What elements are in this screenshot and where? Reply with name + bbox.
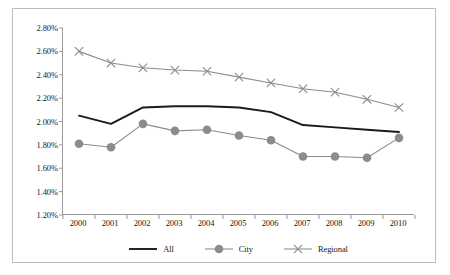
- series-all: [79, 106, 399, 132]
- legend-swatch-city-icon: [204, 243, 234, 255]
- data-point-marker-circle: [267, 136, 276, 145]
- legend-item-regional[interactable]: Regional: [283, 243, 348, 255]
- data-point-marker-circle: [299, 152, 308, 161]
- series-regional: [75, 47, 403, 112]
- legend-label: Regional: [318, 245, 348, 254]
- legend-label: City: [239, 245, 253, 254]
- y-axis-tick-label: 2.00%: [10, 118, 58, 127]
- chart-figure: 2.80%2.60%2.40%2.20%2.00%1.80%1.60%1.40%…: [0, 0, 450, 275]
- chart-legend: AllCityRegional: [62, 241, 414, 257]
- data-point-marker-circle: [75, 139, 84, 148]
- plot-area: [62, 28, 414, 215]
- data-point-marker-circle: [235, 131, 244, 140]
- legend-item-city[interactable]: City: [204, 243, 253, 255]
- y-axis-tick-label: 1.60%: [10, 164, 58, 173]
- plot-series-svg: [63, 28, 415, 215]
- legend-swatch-regional-icon: [283, 243, 313, 255]
- y-axis-tick-label: 2.80%: [10, 24, 58, 33]
- data-point-marker-circle: [203, 125, 212, 134]
- data-point-marker-circle: [395, 134, 404, 143]
- y-axis-tick-label: 2.20%: [10, 94, 58, 103]
- y-axis-tick-label: 1.20%: [10, 211, 58, 220]
- y-axis-tick-label: 2.60%: [10, 47, 58, 56]
- data-point-marker-circle: [363, 153, 372, 162]
- legend-swatch-all-icon: [128, 243, 158, 255]
- data-point-marker-x: [75, 47, 83, 55]
- legend-label: All: [163, 245, 174, 254]
- series-line-regional: [79, 51, 399, 107]
- series-line-all: [79, 106, 399, 132]
- data-point-marker-circle: [139, 120, 148, 129]
- x-axis-tick-labels: 2000200120022003200420052006200720082009…: [62, 219, 414, 233]
- y-axis-tick-label: 2.40%: [10, 71, 58, 80]
- y-axis-tick-label: 1.40%: [10, 188, 58, 197]
- x-axis-tick-label: 2010: [378, 219, 418, 228]
- series-city: [75, 120, 404, 162]
- data-point-marker-circle: [331, 152, 340, 161]
- data-point-marker-x: [395, 103, 403, 111]
- legend-item-all[interactable]: All: [128, 243, 174, 255]
- data-point-marker-circle: [107, 143, 116, 152]
- data-point-marker-x: [363, 95, 371, 103]
- data-point-marker-circle: [171, 127, 180, 136]
- y-axis-tick-label: 1.80%: [10, 141, 58, 150]
- y-axis-tick-labels: 2.80%2.60%2.40%2.20%2.00%1.80%1.60%1.40%…: [6, 28, 58, 215]
